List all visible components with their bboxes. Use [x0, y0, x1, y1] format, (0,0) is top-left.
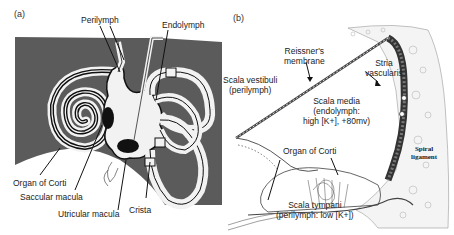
label-stria-line1: Stria — [375, 58, 392, 68]
label-saccular-macula: Saccular macula — [20, 192, 83, 202]
label-reissners-line2: membrane — [284, 56, 325, 66]
label-scala-tympani: Scala tympani (perilymph: low [K+]) — [276, 200, 354, 220]
label-scala-media-line1: Scala media — [313, 96, 360, 106]
label-organ-of-corti-b: Organ of Corti — [283, 146, 336, 156]
label-scala-media-line3: high [K+], +80mv) — [303, 116, 370, 126]
label-stria-vascularis: Stria vascularis — [365, 58, 403, 78]
label-organ-of-corti: Organ of Corti — [13, 178, 66, 188]
label-endolymph: Endolymph — [162, 20, 205, 30]
label-utricular-macula: Utricular macula — [58, 209, 119, 219]
panel-a-labyrinth: (a) — [0, 0, 228, 235]
label-scala-tympani-line2: (perilymph: low [K+]) — [276, 210, 354, 220]
label-scala-media: Scala media (endolymph: high [K+], +80mv… — [303, 96, 370, 126]
label-reissners-membrane: Reissner's membrane — [284, 46, 325, 66]
label-scala-vestibuli-line1: Scala vestibuli — [223, 75, 277, 85]
label-scala-vestibuli: Scala vestibuli (perilymph) — [223, 75, 277, 95]
label-spiral-line2: ligament — [411, 153, 437, 161]
label-scala-media-line2: (endolymph: — [313, 106, 360, 116]
label-perilymph: Perilymph — [81, 15, 119, 25]
label-crista: Crista — [129, 205, 151, 215]
label-spiral-line1: Spiral — [415, 145, 433, 153]
label-stria-line2: vascularis — [365, 68, 403, 78]
label-reissners-line1: Reissner's — [285, 46, 324, 56]
panel-b-cochlear-duct: (b) — [228, 0, 454, 235]
label-scala-vestibuli-line2: (perilymph) — [229, 85, 272, 95]
label-spiral-ligament: Spiral ligament — [411, 145, 437, 161]
label-scala-tympani-line1: Scala tympani — [288, 200, 341, 210]
